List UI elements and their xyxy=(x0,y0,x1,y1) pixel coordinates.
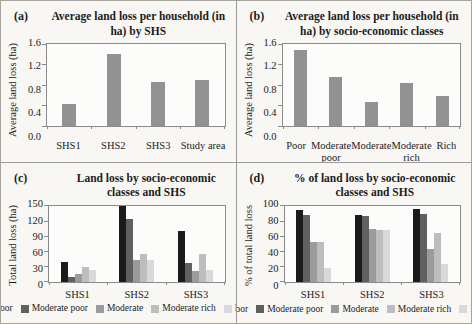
x-tick-mark xyxy=(166,282,167,285)
x-tick-mark xyxy=(318,126,319,129)
chart-area-c: Total land loss (ha) 0306090120150 xyxy=(8,205,229,286)
x-category-label: SHS1 xyxy=(46,140,91,152)
bar-moderate-poor xyxy=(362,216,369,282)
x-axis-labels-c: SHS1SHS2SHS3 xyxy=(48,289,226,301)
y-tick-label: 60 xyxy=(33,248,44,259)
y-tick-label: 1.2 xyxy=(28,62,41,73)
bar-poor xyxy=(119,206,126,281)
chart-title-d: % of land loss by socio-economic classes… xyxy=(286,171,465,200)
bar-poor xyxy=(355,215,362,282)
x-tick-mark xyxy=(401,282,402,285)
category-slot xyxy=(318,44,354,126)
x-tick-mark xyxy=(283,126,284,129)
y-tick-label: 0.4 xyxy=(28,109,41,120)
legend-item-poor: Poor xyxy=(237,305,249,315)
panel-label-a: (a) xyxy=(14,9,28,24)
category-slot xyxy=(402,206,461,282)
bar-shs1 xyxy=(62,104,76,127)
y-tick-label: 1.6 xyxy=(28,38,41,49)
y-tick-mark xyxy=(42,126,46,127)
x-tick-mark xyxy=(459,282,460,285)
legend-c: PoorModerate poorModerateModerate richRi… xyxy=(8,304,229,314)
y-tick-label: 150 xyxy=(27,200,43,211)
category-slot xyxy=(389,44,425,126)
x-category-label: Rich xyxy=(432,140,461,161)
y-tick-mark xyxy=(44,266,48,267)
legend-label: Rich xyxy=(235,304,236,314)
x-tick-mark xyxy=(91,126,92,129)
y-axis-label-c: Total land loss (ha) xyxy=(8,205,22,286)
y-tick-mark xyxy=(44,221,48,222)
legend-swatch-icon xyxy=(459,305,467,313)
category-slot xyxy=(47,44,91,126)
bar-moderate-rich xyxy=(199,254,206,282)
x-tick-mark xyxy=(343,282,344,285)
x-tick-mark xyxy=(285,282,286,285)
chart-title-b: Average land loss per household (in ha) … xyxy=(280,9,465,38)
category-slot xyxy=(91,44,135,126)
plot-area-b xyxy=(282,43,462,127)
y-tick-mark xyxy=(280,281,284,282)
bar-moderate-poor xyxy=(420,214,427,282)
bar-moderate xyxy=(369,229,376,282)
figure-panel-grid: (a) Average land loss per household (in … xyxy=(0,0,472,324)
y-tick-label: 120 xyxy=(27,216,43,227)
y-tick-mark xyxy=(280,236,284,237)
bar-rich xyxy=(436,96,449,127)
bar-moderate-poor xyxy=(68,277,75,282)
legend-label: Moderate rich xyxy=(162,304,216,314)
legend-label: Moderate rich xyxy=(398,305,452,315)
x-category-label: Study area xyxy=(181,140,226,152)
y-tick-mark xyxy=(44,236,48,237)
y-tick-mark xyxy=(42,64,46,65)
x-tick-mark xyxy=(459,126,460,129)
bar-rich xyxy=(441,264,448,281)
legend-item-moderate-rich: Moderate rich xyxy=(387,305,452,315)
y-tick-mark xyxy=(42,85,46,86)
y-tick-mark xyxy=(280,251,284,252)
bar-rich xyxy=(383,230,390,282)
bar-moderate xyxy=(133,260,140,282)
category-slot xyxy=(108,206,167,282)
legend-swatch-icon xyxy=(224,305,232,313)
legend-swatch-icon xyxy=(151,305,159,313)
bar-moderate-poor xyxy=(303,215,310,282)
category-slot xyxy=(283,44,319,126)
x-category-label: SHS2 xyxy=(91,140,136,152)
category-slot xyxy=(343,206,402,282)
legend-label: Poor xyxy=(1,304,13,314)
legend-item-moderate-poor: Moderate poor xyxy=(21,304,88,314)
bar-poor xyxy=(413,209,420,282)
y-tick-label: 0 xyxy=(38,280,43,291)
bar-moderate-rich xyxy=(400,83,413,127)
x-category-label: Poor xyxy=(282,140,311,161)
y-tick-mark xyxy=(278,64,282,65)
legend-label: Moderate xyxy=(342,305,378,315)
bar-moderate-rich xyxy=(376,230,383,282)
category-slot xyxy=(354,44,390,126)
legend-swatch-icon xyxy=(21,305,29,313)
plot-area-a xyxy=(46,43,226,127)
bar-moderate-poor xyxy=(329,77,342,127)
plot-area-c xyxy=(48,205,226,283)
y-tick-label: 0.0 xyxy=(28,132,41,143)
y-tick-mark xyxy=(278,85,282,86)
y-tick-label: 1.2 xyxy=(263,62,276,73)
y-tick-label: 0.0 xyxy=(263,132,276,143)
panel-c: (c) Land loss by socio-economic classes … xyxy=(1,163,236,324)
bar-moderate-rich xyxy=(317,242,324,282)
y-tick-label: 0.4 xyxy=(263,109,276,120)
bar-moderate-rich xyxy=(82,267,89,282)
y-tick-mark xyxy=(278,44,282,45)
bar-moderate-rich xyxy=(140,254,147,282)
y-tick-label: 80 xyxy=(268,216,279,227)
y-axis-ticks-d: 020406080100 xyxy=(258,205,284,286)
panel-a: (a) Average land loss per household (in … xyxy=(1,1,236,162)
bar-rich xyxy=(89,270,96,282)
y-tick-label: 100 xyxy=(263,200,279,211)
y-tick-mark xyxy=(280,205,284,206)
x-axis-labels-b: PoorModerate poorModerateModerate richRi… xyxy=(282,140,462,161)
plot-area-d xyxy=(284,205,462,283)
x-tick-mark xyxy=(354,126,355,129)
y-tick-label: 90 xyxy=(33,232,44,243)
